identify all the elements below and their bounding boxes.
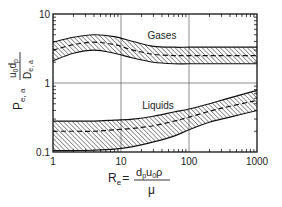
svg-text:Pe, a: Pe, a bbox=[11, 88, 27, 110]
svg-text:u0dp: u0dp bbox=[7, 59, 20, 78]
y-label-den: D bbox=[22, 72, 33, 79]
x-tick-label: 1 bbox=[50, 156, 56, 167]
x-tick-label: 10 bbox=[115, 156, 127, 167]
x-label-subscript: e bbox=[117, 178, 122, 187]
x-label-denominator: μ bbox=[148, 183, 155, 197]
peclet-reynolds-chart: 11010010000.1110 GasesLiquids Re= dpu0ρ … bbox=[0, 0, 282, 207]
data-bands bbox=[53, 35, 257, 151]
band-label-liquids: Liquids bbox=[142, 100, 174, 111]
y-label-num-d-sub: p bbox=[12, 59, 20, 63]
y-label-subscript: e, a bbox=[18, 88, 27, 102]
x-label-symbol: R bbox=[108, 171, 117, 185]
y-tick-label: 10 bbox=[39, 9, 51, 20]
x-axis-label: Re= dpu0ρ μ bbox=[108, 166, 170, 197]
svg-text:De, a: De, a bbox=[22, 60, 34, 79]
x-tick-label: 1000 bbox=[246, 156, 269, 167]
y-label-symbol: P bbox=[11, 102, 25, 110]
x-label-equals: = bbox=[122, 171, 129, 185]
y-tick-label: 1 bbox=[44, 78, 50, 89]
y-axis-label: Pe, a u0dp De, a bbox=[7, 52, 34, 110]
band-labels: GasesLiquids bbox=[142, 30, 176, 111]
x-label-num-rho: ρ bbox=[156, 166, 162, 178]
x-tick-label: 100 bbox=[181, 156, 198, 167]
band-label-gases: Gases bbox=[147, 30, 176, 41]
y-label-den-sub: e, a bbox=[27, 60, 34, 72]
svg-text:Re=: Re= bbox=[108, 171, 129, 187]
svg-text:dpu0ρ: dpu0ρ bbox=[136, 166, 162, 180]
y-tick-label: 0.1 bbox=[36, 147, 50, 158]
